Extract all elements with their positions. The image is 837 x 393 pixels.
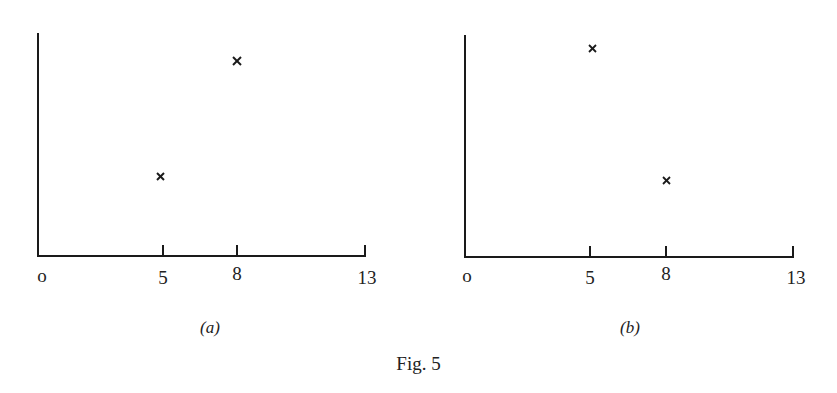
x-tick-label-13: 13 (787, 267, 806, 288)
x-marker-icon (589, 45, 596, 52)
panel-label-a: (a) (200, 318, 220, 337)
x-tick-label-13: 13 (358, 267, 377, 288)
x-tick-label-5: 5 (585, 267, 595, 288)
x-tick-label-0: o (462, 265, 472, 286)
x-marker-icon (157, 173, 164, 180)
figure-canvas: o 5 8 13 (a) o 5 8 13 (b) (0, 0, 837, 393)
panel-label-b: (b) (620, 318, 640, 337)
x-tick-label-8: 8 (232, 263, 242, 284)
panel-a: o 5 8 13 (a) (37, 33, 377, 337)
panel-b: o 5 8 13 (b) (462, 35, 805, 337)
x-tick-label-5: 5 (158, 267, 168, 288)
x-tick-label-8: 8 (661, 263, 671, 284)
x-marker-icon (663, 177, 670, 184)
x-marker-icon (233, 57, 241, 65)
x-tick-label-0: o (37, 265, 47, 286)
figure-caption: Fig. 5 (0, 353, 837, 375)
